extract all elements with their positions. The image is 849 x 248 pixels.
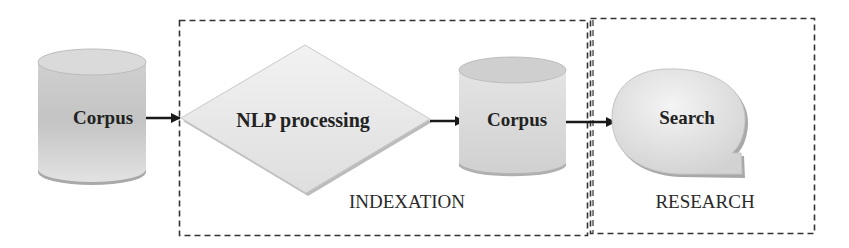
corpus-indexed-label: Corpus xyxy=(487,109,547,131)
corpus-input-label: Corpus xyxy=(73,107,133,129)
nlp-processing-label: NLP processing xyxy=(236,109,370,132)
search-label: Search xyxy=(659,107,715,129)
research-group-label: RESEARCH xyxy=(655,191,754,213)
indexation-group-label: INDEXATION xyxy=(349,191,465,213)
